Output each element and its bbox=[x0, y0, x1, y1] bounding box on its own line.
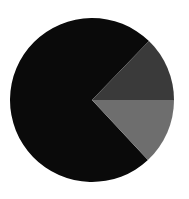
pie-chart-svg bbox=[0, 0, 189, 199]
pie-chart bbox=[0, 0, 189, 199]
